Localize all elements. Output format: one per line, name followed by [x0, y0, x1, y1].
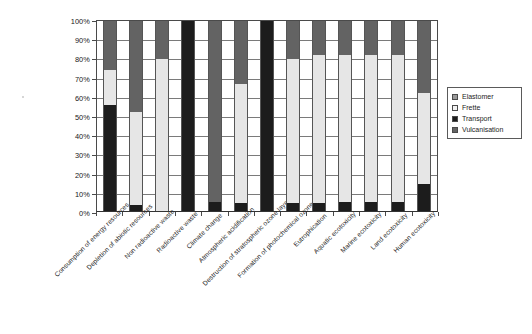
- legend-item[interactable]: Vulcanisation: [452, 125, 517, 134]
- bar-segment: [103, 70, 117, 104]
- bar-segment: [129, 205, 143, 211]
- bar: [391, 21, 405, 211]
- plot-area: 0%10%20%30%40%50%60%70%80%90%100%: [96, 20, 438, 212]
- bar-segment: [129, 21, 143, 112]
- bar-segment: [417, 93, 431, 184]
- bar: [417, 21, 431, 211]
- bar-segment: [208, 202, 222, 212]
- legend-item-label: Transport: [462, 115, 492, 122]
- bar: [338, 21, 352, 211]
- x-axis-labels: Consumption of energy resourcesDepletion…: [0, 214, 532, 324]
- legend-item[interactable]: Transport: [452, 114, 517, 123]
- bar: [103, 21, 117, 211]
- bar-segment: [103, 21, 117, 70]
- bar-segment: [181, 21, 195, 211]
- bar-segment: [234, 21, 248, 84]
- bar: [129, 21, 143, 211]
- bar-segment: [338, 21, 352, 55]
- bar: [364, 21, 378, 211]
- scan-artifact-speck: [22, 96, 24, 98]
- legend-swatch-icon: [452, 105, 458, 111]
- bar-group: [97, 21, 437, 211]
- bar-segment: [129, 112, 143, 205]
- bar-segment: [364, 21, 378, 55]
- legend-swatch-icon: [452, 127, 458, 133]
- bar: [155, 21, 169, 211]
- bar-segment: [208, 21, 222, 202]
- bar-segment: [312, 55, 326, 203]
- legend-swatch-icon: [452, 94, 458, 100]
- legend: ElastomerFretteTransportVulcanisation: [447, 87, 522, 139]
- bar: [208, 21, 222, 211]
- bar: [181, 21, 195, 211]
- chart-figure: 0%10%20%30%40%50%60%70%80%90%100% Consum…: [0, 0, 532, 334]
- legend-swatch-icon: [452, 116, 458, 122]
- bar-segment: [417, 184, 431, 211]
- x-axis-label: Non radioactive waste: [123, 208, 175, 260]
- bar-segment: [391, 202, 405, 212]
- bar-segment: [391, 21, 405, 55]
- bar: [260, 21, 274, 211]
- legend-item-label: Vulcanisation: [462, 126, 503, 133]
- bar-segment: [155, 21, 169, 59]
- bar-segment: [155, 59, 169, 211]
- bar-segment: [312, 203, 326, 211]
- bar: [312, 21, 326, 211]
- bar: [234, 21, 248, 211]
- bar-segment: [286, 59, 300, 203]
- bar-segment: [286, 203, 300, 211]
- bar-segment: [417, 21, 431, 93]
- bar-segment: [234, 203, 248, 211]
- legend-item[interactable]: Frette: [452, 103, 517, 112]
- bar-segment: [391, 55, 405, 201]
- bar-segment: [103, 105, 117, 211]
- legend-item-label: Elastomer: [462, 93, 494, 100]
- bar-segment: [338, 202, 352, 212]
- bar-segment: [312, 21, 326, 55]
- bar-segment: [338, 55, 352, 201]
- bar: [286, 21, 300, 211]
- bar-segment: [260, 21, 274, 211]
- legend-item[interactable]: Elastomer: [452, 92, 517, 101]
- bar-segment: [234, 84, 248, 204]
- legend-item-label: Frette: [462, 104, 480, 111]
- bar-segment: [364, 55, 378, 201]
- bar-segment: [364, 202, 378, 212]
- bar-segment: [286, 21, 300, 59]
